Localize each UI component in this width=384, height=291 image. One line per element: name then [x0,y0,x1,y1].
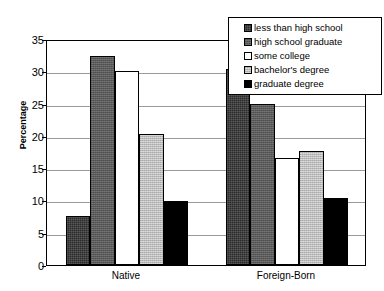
x-axis-category-label: Native [46,270,206,281]
y-axis-tick-labels: 05101520253035 [20,40,44,266]
bar [90,56,115,265]
bar [299,151,324,265]
legend-item-label: bachelor's degree [254,65,329,75]
legend-item-label: some college [254,51,310,61]
y-axis-tick-mark [42,234,46,235]
y-axis-tick-label: 20 [20,132,44,142]
legend-swatch-white [244,52,252,60]
y-axis-tick-mark [42,266,46,267]
legend-item-label: graduate degree [254,79,324,89]
y-axis-tick-label: 15 [20,164,44,174]
legend-swatch-light-gray [244,66,252,74]
legend-item: high school graduate [244,35,378,49]
y-axis-tick-mark [42,72,46,73]
legend-item: less than high school [244,21,378,35]
bar [324,198,349,265]
legend-swatch-medium-gray [244,38,252,46]
y-axis-tick-mark [42,105,46,106]
bar [139,134,164,265]
y-axis-tick-mark [42,201,46,202]
y-axis-tick-label: 30 [20,67,44,77]
legend-swatch-black [244,80,252,88]
bar [66,216,91,265]
legend: less than high schoolhigh school graduat… [228,17,382,95]
legend-swatch-dark [244,24,252,32]
legend-item: bachelor's degree [244,63,378,77]
legend-item-label: less than high school [254,23,343,33]
y-axis-tick-label: 0 [20,261,44,271]
bar [115,71,140,265]
y-axis-tick-label: 5 [20,229,44,239]
y-axis-tick-label: 25 [20,100,44,110]
y-axis-tick-mark [42,137,46,138]
y-axis-tick-label: 35 [20,35,44,45]
legend-item: some college [244,49,378,63]
y-axis-tick-label: 10 [20,196,44,206]
legend-item-label: high school graduate [254,37,342,47]
bar [164,201,189,265]
x-axis-category-label: Foreign-Born [206,270,366,281]
y-axis-tick-mark [42,169,46,170]
legend-item: graduate degree [244,77,378,91]
x-axis-category-labels: NativeForeign-Born [46,270,366,288]
bar [226,69,251,265]
y-axis-tick-mark [42,40,46,41]
bar [275,158,300,265]
bar-chart: Percentage 05101520253035 NativeForeign-… [0,0,384,291]
bar [250,104,275,265]
